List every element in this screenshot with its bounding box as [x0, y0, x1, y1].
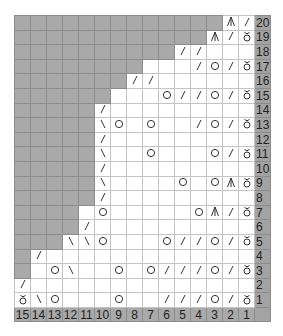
twisted-stitch-icon: [242, 31, 252, 42]
no-stitch-cell: [127, 45, 143, 60]
stitch-cell: [159, 205, 175, 220]
chart-row: 7: [15, 205, 271, 220]
no-stitch-cell: [143, 16, 159, 31]
row-number: 10: [255, 161, 271, 176]
no-stitch-cell: [31, 16, 47, 31]
no-stitch-cell: [63, 45, 79, 60]
stitch-cell: [143, 103, 159, 118]
stitch-cell: [143, 59, 159, 74]
chart-row: 12: [15, 132, 271, 147]
no-stitch-cell: [31, 30, 47, 45]
stitch-cell: [239, 118, 255, 133]
k2tog-icon: [227, 90, 235, 100]
stitch-cell: [63, 234, 79, 249]
k2tog-icon: [163, 265, 171, 275]
no-stitch-cell: [111, 74, 127, 89]
stitch-cell: [223, 118, 239, 133]
stitch-cell: [207, 118, 223, 133]
k2tog-icon: [227, 294, 235, 304]
stitch-cell: [127, 249, 143, 264]
stitch-cell: [143, 264, 159, 279]
stitch-cell: [143, 176, 159, 191]
no-stitch-cell: [31, 191, 47, 206]
yarn-over-icon: [194, 207, 204, 217]
stitch-cell: [175, 161, 191, 176]
no-stitch-cell: [79, 161, 95, 176]
stitch-cell: [159, 176, 175, 191]
stitch-cell: [79, 264, 95, 279]
stitch-cell: [223, 264, 239, 279]
stitch-cell: [127, 147, 143, 162]
row-number: 16: [255, 74, 271, 89]
stitch-cell: [95, 191, 111, 206]
k2tog-icon: [227, 61, 235, 71]
no-stitch-cell: [31, 220, 47, 235]
no-stitch-cell: [15, 191, 31, 206]
twisted-stitch-icon: [242, 148, 252, 159]
stitch-cell: [47, 249, 63, 264]
stitch-cell: [191, 278, 207, 293]
stitch-cell: [127, 161, 143, 176]
stitch-cell: [127, 205, 143, 220]
stitch-cell: [127, 132, 143, 147]
stitch-cell: [223, 293, 239, 308]
stitch-cell: [159, 161, 175, 176]
no-stitch-cell: [95, 74, 111, 89]
no-stitch-cell: [47, 16, 63, 31]
column-number: 3: [207, 307, 223, 322]
stitch-cell: [143, 74, 159, 89]
no-stitch-cell: [63, 118, 79, 133]
no-stitch-cell: [159, 45, 175, 60]
chart-row: 16: [15, 74, 271, 89]
stitch-cell: [223, 88, 239, 103]
twisted-stitch-icon: [242, 118, 252, 129]
yarn-over-icon: [162, 90, 172, 100]
stitch-cell: [223, 147, 239, 162]
k2tog-icon: [179, 90, 187, 100]
chart-row: 18: [15, 45, 271, 60]
stitch-cell: [191, 147, 207, 162]
no-stitch-cell: [79, 147, 95, 162]
stitch-cell: [127, 264, 143, 279]
no-stitch-cell: [15, 264, 31, 279]
k2tog-icon: [19, 279, 27, 289]
stitch-cell: [207, 176, 223, 191]
stitch-cell: [207, 234, 223, 249]
k2tog-icon: [131, 75, 139, 85]
no-stitch-cell: [63, 103, 79, 118]
stitch-cell: [191, 191, 207, 206]
k2tog-icon: [227, 119, 235, 129]
stitch-cell: [191, 59, 207, 74]
row-number: 8: [255, 191, 271, 206]
stitch-cell: [207, 191, 223, 206]
column-number: 14: [31, 307, 47, 322]
stitch-cell: [239, 59, 255, 74]
stitch-cell: [127, 88, 143, 103]
stitch-cell: [143, 234, 159, 249]
chart-row: 6: [15, 220, 271, 235]
yarn-over-icon: [210, 148, 220, 158]
no-stitch-cell: [63, 74, 79, 89]
no-stitch-cell: [47, 118, 63, 133]
chart-row: 17: [15, 59, 271, 74]
no-stitch-cell: [15, 74, 31, 89]
yarn-over-icon: [210, 119, 220, 129]
stitch-cell: [159, 88, 175, 103]
k2tog-icon: [243, 17, 251, 27]
row-number: 18: [255, 45, 271, 60]
k2tog-icon: [227, 207, 235, 217]
column-number: 6: [159, 307, 175, 322]
row-number: 19: [255, 30, 271, 45]
stitch-cell: [127, 176, 143, 191]
no-stitch-cell: [15, 132, 31, 147]
no-stitch-cell: [31, 74, 47, 89]
stitch-cell: [111, 176, 127, 191]
stitch-cell: [175, 249, 191, 264]
no-stitch-cell: [127, 30, 143, 45]
ssk-icon: [99, 177, 107, 187]
stitch-cell: [223, 59, 239, 74]
no-stitch-cell: [47, 161, 63, 176]
yarn-over-icon: [146, 265, 156, 275]
stitch-cell: [191, 176, 207, 191]
no-stitch-cell: [15, 118, 31, 133]
